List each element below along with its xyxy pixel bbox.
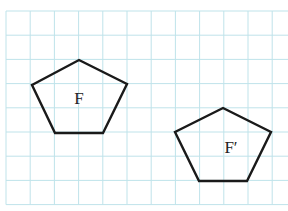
transformation-diagram: F F′ (0, 0, 288, 211)
grid-paper (6, 11, 288, 205)
pentagon-f-prime (175, 108, 271, 181)
label-f: F (74, 89, 83, 108)
label-f-prime: F′ (224, 138, 237, 157)
